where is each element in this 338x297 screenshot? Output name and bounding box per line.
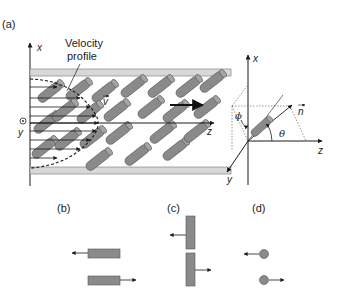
rod-c-top <box>186 216 195 249</box>
orient-y-axis <box>227 141 248 172</box>
velocity-label: v <box>103 96 109 107</box>
y-axis-label: y <box>17 127 24 138</box>
top-wall <box>30 69 231 76</box>
panel-c: (c) <box>167 202 211 286</box>
sphere-d-top <box>260 250 269 259</box>
phi-label: ϕ <box>235 110 242 121</box>
panel-label-a: (a) <box>2 18 15 30</box>
rod-c-bottom <box>186 253 195 286</box>
orient-z-label: z <box>317 145 323 156</box>
sphere-d-bottom <box>260 276 269 285</box>
theta-label: θ <box>279 128 285 139</box>
orient-y-label: y <box>226 174 233 185</box>
panel-label-b: (b) <box>57 202 70 214</box>
rods <box>30 68 228 172</box>
orientation-diagram: x z y n ϕ θ <box>226 53 323 185</box>
panel-a: (a) x y <box>2 18 231 186</box>
panel-label-c: (c) <box>167 202 180 214</box>
orient-x-label: x <box>252 53 259 64</box>
velocity-profile-label-line2: profile <box>67 50 97 62</box>
panel-b: (b) <box>57 202 136 285</box>
panel-label-d: (d) <box>252 202 265 214</box>
director-label: n <box>298 106 304 117</box>
rod-b-top <box>88 249 120 258</box>
panel-d: (d) <box>244 202 284 285</box>
rod-b-bottom <box>88 276 120 285</box>
velocity-profile-label-line1: Velocity <box>65 37 103 49</box>
x-axis-label: x <box>36 42 43 53</box>
oriented-rod <box>250 115 274 138</box>
bottom-wall <box>30 167 231 174</box>
z-axis-label: z <box>206 126 212 137</box>
figure-canvas: (a) x y <box>0 0 338 297</box>
